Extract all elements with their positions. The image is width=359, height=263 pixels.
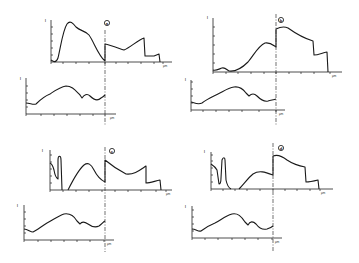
y-axis-label: I	[207, 16, 208, 20]
panel-c-upper-plot: I μm	[42, 149, 172, 196]
x-unit-label: μm	[321, 191, 326, 195]
panel-b-label: b	[280, 18, 283, 23]
panel-b: I μm b I μm	[185, 14, 342, 126]
intensity-curve	[51, 22, 160, 62]
y-axis-label: I	[185, 78, 186, 82]
panel-d-label: d	[280, 146, 283, 151]
intensity-curve	[191, 87, 276, 104]
panel-a: I μm a I μm	[20, 19, 172, 126]
panel-d-upper-plot: I μm	[204, 150, 333, 195]
panel-a-lower-plot: I μm	[20, 77, 116, 120]
y-axis-label: I	[17, 204, 18, 208]
intensity-curve	[211, 155, 319, 189]
panel-c: I μm c I μm	[17, 147, 172, 252]
intensity-curve	[24, 214, 105, 232]
y-axis-label: I	[20, 77, 21, 81]
panel-b-lower-plot: I μm	[185, 78, 285, 116]
x-unit-label: μm	[275, 240, 280, 244]
intensity-curve	[192, 214, 273, 231]
intensity-curve	[26, 86, 105, 104]
intensity-curve	[213, 27, 328, 72]
x-unit-label: μm	[110, 116, 115, 120]
y-axis-label: I	[45, 19, 46, 23]
panel-d: I μm d I μm	[185, 143, 333, 252]
panel-c-lower-plot: I μm	[17, 204, 114, 246]
x-unit-label: μm	[107, 242, 112, 246]
x-unit-label: μm	[279, 112, 284, 116]
intensity-curve	[50, 156, 161, 190]
panel-a-upper-plot: I μm	[45, 19, 172, 68]
x-unit-label: μm	[332, 74, 337, 78]
panel-d-lower-plot: I μm	[185, 205, 282, 244]
x-unit-label: μm	[166, 192, 171, 196]
y-axis-label: I	[185, 205, 186, 209]
panel-b-upper-plot: I μm	[207, 16, 342, 78]
x-unit-label: μm	[163, 64, 168, 68]
y-axis-label: I	[42, 149, 43, 153]
figure-canvas: I μm a I μm	[0, 0, 359, 263]
y-axis-label: I	[204, 150, 205, 154]
